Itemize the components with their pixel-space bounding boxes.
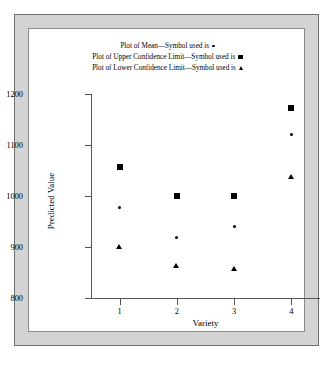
figure-frame: Plot of Mean—Symbol used is Plot of Uppe… bbox=[14, 14, 319, 346]
data-point-square bbox=[117, 164, 123, 170]
x-tick-label: 3 bbox=[224, 307, 244, 316]
x-tick-mark bbox=[291, 299, 292, 305]
data-point-triangle bbox=[288, 174, 294, 179]
data-point-triangle bbox=[231, 266, 237, 271]
data-point-dot bbox=[175, 236, 178, 239]
x-tick-label: 2 bbox=[167, 307, 187, 316]
y-tick-label: 1100 bbox=[7, 141, 23, 150]
plot-canvas: Plot of Mean—Symbol used is Plot of Uppe… bbox=[28, 28, 305, 332]
y-tick-label: 1200 bbox=[6, 90, 23, 99]
x-axis-line bbox=[91, 298, 320, 299]
y-axis-label: Predicted Value bbox=[46, 131, 56, 271]
y-tick-mark bbox=[85, 247, 91, 248]
x-axis-label: Variety bbox=[91, 318, 320, 328]
data-point-dot bbox=[290, 133, 293, 136]
y-tick-label: 900 bbox=[10, 243, 23, 252]
data-point-square bbox=[174, 193, 180, 199]
data-point-dot bbox=[118, 206, 121, 209]
data-point-triangle bbox=[116, 244, 122, 249]
y-tick-mark bbox=[85, 94, 91, 95]
figure-root: Plot of Mean—Symbol used is Plot of Uppe… bbox=[0, 0, 335, 366]
y-tick-label: 1000 bbox=[6, 192, 23, 201]
x-tick-mark bbox=[234, 299, 235, 305]
y-tick-mark bbox=[85, 145, 91, 146]
data-point-square bbox=[288, 105, 294, 111]
y-tick-label: 800 bbox=[10, 294, 23, 303]
y-tick-mark bbox=[85, 298, 91, 299]
y-axis-line bbox=[91, 94, 92, 298]
data-point-triangle bbox=[173, 263, 179, 268]
data-point-dot bbox=[233, 225, 236, 228]
y-tick-mark bbox=[85, 196, 91, 197]
data-point-square bbox=[231, 193, 237, 199]
x-tick-mark bbox=[120, 299, 121, 305]
axes-area: 800900100011001200 1234 Predicted Value … bbox=[29, 29, 306, 333]
x-tick-mark bbox=[177, 299, 178, 305]
x-tick-label: 1 bbox=[110, 307, 130, 316]
x-tick-label: 4 bbox=[281, 307, 301, 316]
